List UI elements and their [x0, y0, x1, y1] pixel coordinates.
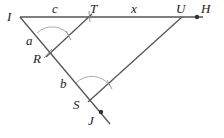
label-s: S: [73, 97, 80, 112]
segment-us: [88, 17, 182, 102]
angle-arc-r: [37, 27, 70, 36]
ray-ij: [20, 17, 110, 124]
point-h-dot: [195, 15, 199, 19]
label-segment-b: b: [60, 76, 67, 91]
label-i: I: [6, 9, 12, 24]
label-segment-c: c: [52, 1, 58, 16]
label-t: T: [90, 1, 98, 16]
point-j-dot: [99, 110, 103, 114]
label-segment-a: a: [26, 33, 33, 48]
label-u: U: [176, 1, 187, 16]
geometry-diagram: I T U H R S J c x a b: [0, 0, 224, 138]
label-h: H: [200, 1, 211, 16]
label-r: R: [32, 51, 41, 66]
label-segment-x: x: [130, 1, 137, 16]
label-j: J: [88, 113, 95, 128]
angle-arc-s: [76, 76, 110, 86]
